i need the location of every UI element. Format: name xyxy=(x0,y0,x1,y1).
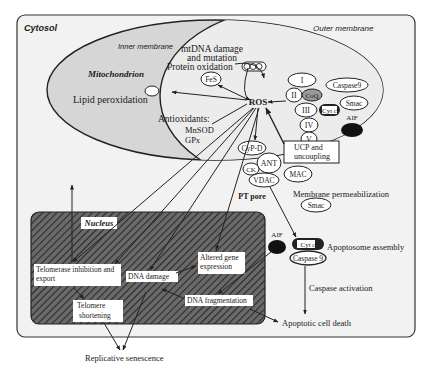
svg-text:Smac: Smac xyxy=(308,201,325,210)
svg-text:Telomere: Telomere xyxy=(77,301,106,310)
svg-text:Telomerase inhibition and: Telomerase inhibition and xyxy=(36,265,114,274)
svg-text:Cyt c: Cyt c xyxy=(301,241,316,249)
protein-oxidation-label: Protein oxidation xyxy=(167,62,233,72)
outer-membrane-label: Outer membrane xyxy=(313,24,374,33)
svg-text:IV: IV xyxy=(305,121,314,130)
inner-membrane-label: Inner membrane xyxy=(118,42,173,51)
svg-text:UCP and: UCP and xyxy=(294,143,323,152)
svg-text:DNA damage: DNA damage xyxy=(128,272,170,281)
mnsod-label: MnSOD xyxy=(185,125,214,135)
svg-text:CoQ: CoQ xyxy=(305,92,318,100)
svg-text:uncoupling: uncoupling xyxy=(294,152,330,161)
nucleus-label: Nucleus xyxy=(84,218,115,228)
svg-text:Altered gene: Altered gene xyxy=(200,253,239,262)
membrane-lipid-node xyxy=(145,86,159,96)
aif-mito-label: AIF xyxy=(346,114,357,122)
svg-text:I: I xyxy=(301,76,304,85)
svg-text:VDAC: VDAC xyxy=(253,176,274,185)
antioxidants-label: Antioxidants: xyxy=(158,114,210,124)
lipid-peroxidation-label: Lipid peroxidation xyxy=(73,94,148,105)
svg-text:expression: expression xyxy=(200,262,232,271)
aif-cytosol-label: AIF xyxy=(271,231,282,239)
svg-text:Cyt c: Cyt c xyxy=(322,107,337,115)
nucleus: Nucleus Telomerase inhibition and export… xyxy=(31,212,265,324)
ros-label: ROS xyxy=(249,97,268,107)
svg-text:Caspase9: Caspase9 xyxy=(333,81,362,90)
svg-text:ANT: ANT xyxy=(261,159,278,168)
svg-text:export: export xyxy=(36,274,56,283)
fes-label: FeS xyxy=(205,75,217,84)
svg-text:CyP-D: CyP-D xyxy=(242,144,263,153)
aif-mito-node xyxy=(341,123,363,137)
membrane-permeabilization-label: Membrane permeabilization xyxy=(293,189,390,199)
cytosol-label: Cytosol xyxy=(24,23,58,33)
replicative-senescence-label: Replicative senescence xyxy=(85,353,164,363)
mitochondrion-label: Mitochondrion xyxy=(87,69,144,79)
pt-pore-label: PT pore xyxy=(238,192,266,201)
mitochondrial-ros-diagram: Cytosol Outer membrane Inner membrane Mi… xyxy=(0,0,429,373)
svg-text:shortening: shortening xyxy=(79,311,111,320)
svg-text:Smac: Smac xyxy=(346,99,363,108)
svg-text:MAC: MAC xyxy=(289,170,306,179)
svg-text:II: II xyxy=(291,91,297,100)
svg-text:CK: CK xyxy=(246,166,256,174)
caspase-activation-label: Caspase activation xyxy=(309,283,373,293)
gpx-label: GPx xyxy=(185,135,201,145)
apoptotic-cell-death-label: Apoptotic cell death xyxy=(282,318,352,328)
svg-text:DNA fragmentation: DNA fragmentation xyxy=(187,296,247,305)
apoptosome-assembly-label: Apoptosome assembly xyxy=(327,242,405,252)
svg-text:Caspase 9: Caspase 9 xyxy=(293,254,323,263)
svg-text:III: III xyxy=(302,106,310,115)
